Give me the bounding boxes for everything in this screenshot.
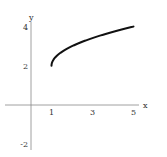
- x-axis: x 135: [5, 101, 148, 117]
- y-tick-label: 2: [23, 62, 28, 71]
- x-axis-label: x: [143, 101, 148, 110]
- x-tick-label: 5: [131, 108, 136, 117]
- function-plot: x 135 y -224: [0, 0, 167, 157]
- y-tick-labels: -224: [20, 23, 28, 150]
- y-axis-label: y: [28, 13, 34, 22]
- x-tick-labels: 135: [49, 108, 136, 117]
- y-tick-label: -2: [20, 140, 28, 149]
- y-axis: y -224: [20, 13, 34, 150]
- y-tick-label: 4: [23, 23, 28, 32]
- x-tick-label: 3: [90, 108, 95, 117]
- x-tick-label: 1: [49, 108, 54, 117]
- function-curve: [52, 27, 134, 66]
